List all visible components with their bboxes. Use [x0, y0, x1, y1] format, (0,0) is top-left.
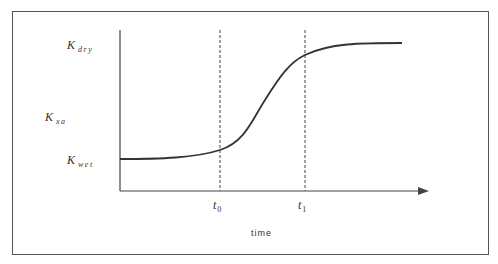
k-wet-sub: wet — [78, 160, 94, 169]
t0-main: t — [213, 198, 216, 212]
x-axis-arrow-icon — [418, 187, 429, 195]
t0-sub: 0 — [217, 205, 221, 214]
k-xa-main: K — [45, 110, 53, 124]
k-xa-label: Kxa — [45, 110, 67, 125]
k-dry-label: Kdry — [67, 38, 93, 53]
k-wet-label: Kwet — [67, 153, 94, 168]
t0-label: t0 — [213, 198, 221, 213]
t1-label: t1 — [298, 198, 306, 213]
t1-main: t — [298, 198, 301, 212]
t1-sub: 1 — [302, 205, 306, 214]
kxa-curve — [120, 43, 402, 159]
k-wet-main: K — [67, 153, 75, 167]
k-dry-sub: dry — [78, 45, 93, 54]
k-dry-main: K — [67, 38, 75, 52]
k-xa-sub: xa — [56, 117, 67, 126]
x-axis-title: time — [251, 228, 272, 238]
